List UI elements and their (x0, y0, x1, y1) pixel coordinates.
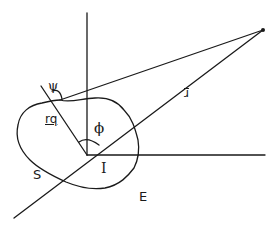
rq-label: rq (45, 113, 57, 125)
source-to-surface-line (60, 30, 263, 100)
r-label: r (184, 88, 189, 100)
phi-angle-arc (79, 140, 99, 145)
e-label: E (139, 190, 147, 203)
i-label: I (101, 161, 107, 175)
phi-label: ϕ (94, 121, 104, 136)
psi-label: ψ (48, 79, 58, 92)
s-label: S (33, 168, 41, 181)
source-point (261, 28, 265, 32)
